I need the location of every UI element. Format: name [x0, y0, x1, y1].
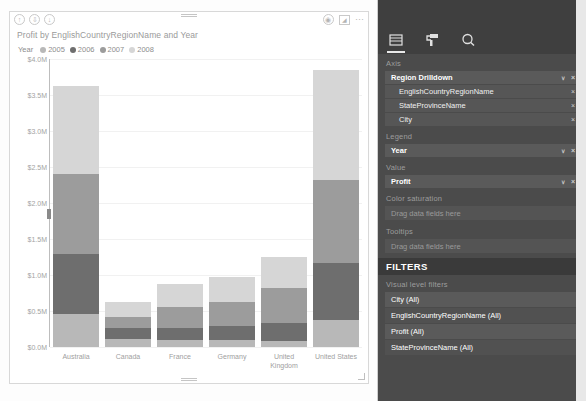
legend-item-2008[interactable]: 2008	[129, 45, 154, 54]
bar-segment[interactable]	[105, 339, 150, 347]
bar-series-group[interactable]	[50, 59, 362, 347]
bar-segment[interactable]	[209, 326, 254, 340]
y-axis: $4.0M$3.5M$3.0M$2.5M$2.0M$1.5M$1.0M$0.5M…	[13, 59, 49, 345]
legend-item-2006[interactable]: 2006	[70, 45, 95, 54]
field-pill[interactable]: Region Drilldown∨×	[385, 71, 579, 84]
remove-field-icon[interactable]: ×	[571, 147, 575, 154]
chevron-down-icon[interactable]: ∨	[561, 178, 565, 185]
remove-field-icon[interactable]: ×	[571, 116, 575, 123]
field-pill[interactable]: StateProvinceName×	[385, 99, 579, 112]
bar-column[interactable]	[105, 59, 150, 347]
legend-label-2007: 2007	[108, 45, 125, 54]
resize-handle-bottom[interactable]	[181, 378, 197, 381]
more-options-icon[interactable]: ⋯	[355, 16, 365, 24]
visual-actions[interactable]: ◉ ◢ ⋯	[323, 14, 365, 25]
bar-segment[interactable]	[313, 180, 358, 263]
legend-item-2005[interactable]: 2005	[40, 45, 65, 54]
bar-segment[interactable]	[105, 328, 150, 339]
panel-body: Axis Region Drilldown∨×EnglishCountryReg…	[378, 54, 586, 356]
bar-stack[interactable]	[53, 86, 98, 347]
bar-segment[interactable]	[261, 341, 306, 347]
y-tick-label: $1.0M	[28, 272, 47, 279]
bar-segment[interactable]	[261, 323, 306, 341]
bar-segment[interactable]	[313, 320, 358, 347]
legend-item-2007[interactable]: 2007	[100, 45, 125, 54]
y-tick-label: $2.0M	[28, 200, 47, 207]
bar-segment[interactable]	[261, 288, 306, 323]
panel-tab-strip[interactable]	[378, 26, 586, 54]
bar-stack[interactable]	[157, 284, 202, 347]
color-saturation-dropzone[interactable]: Drag data fields here	[385, 206, 579, 220]
resize-handle-top[interactable]	[181, 14, 197, 17]
bar-stack[interactable]	[261, 257, 306, 347]
bar-segment[interactable]	[157, 340, 202, 347]
bar-segment[interactable]	[53, 86, 98, 173]
bar-segment[interactable]	[53, 254, 98, 314]
bar-segment[interactable]	[313, 263, 358, 320]
bar-stack[interactable]	[105, 302, 150, 347]
bar-stack[interactable]	[209, 277, 254, 347]
legend-swatch-2005	[40, 47, 46, 53]
color-saturation-label: Color saturation	[378, 189, 586, 206]
bar-segment[interactable]	[53, 174, 98, 255]
plot-area[interactable]	[50, 59, 362, 347]
panel-right-edge	[576, 0, 586, 401]
chart-title: Profit by EnglishCountryRegionName and Y…	[17, 30, 198, 40]
tooltips-dropzone[interactable]: Drag data fields here	[385, 239, 579, 253]
magnifier-icon	[461, 33, 475, 47]
filter-list[interactable]: City (All)EnglishCountryRegionName (All)…	[378, 292, 586, 355]
field-pill-label: Year	[391, 146, 407, 155]
bar-column[interactable]	[53, 59, 98, 347]
remove-field-icon[interactable]: ×	[571, 74, 575, 81]
value-field-list[interactable]: Profit∨×	[378, 175, 586, 188]
focus-mode-icon[interactable]: ◉	[323, 14, 334, 25]
field-pill[interactable]: Profit∨×	[385, 175, 579, 188]
bar-column[interactable]	[313, 59, 358, 347]
legend-field-list[interactable]: Year∨×	[378, 144, 586, 157]
bar-segment[interactable]	[105, 317, 150, 329]
filter-row[interactable]: StateProvinceName (All)	[385, 340, 579, 355]
field-pill[interactable]: City×	[385, 113, 579, 126]
field-pill-label: City	[399, 115, 412, 124]
bar-segment[interactable]	[313, 70, 358, 180]
analytics-tab[interactable]	[458, 30, 478, 50]
bar-segment[interactable]	[157, 307, 202, 327]
filter-row[interactable]: Profit (All)	[385, 324, 579, 339]
remove-field-icon[interactable]: ×	[571, 178, 575, 185]
y-tick-label: $0.5M	[28, 308, 47, 315]
drill-up-icon[interactable]: ↑	[14, 14, 25, 25]
field-pill[interactable]: EnglishCountryRegionName×	[385, 85, 579, 98]
chart-visual-container[interactable]: ↑ ⇩ ↓ ◉ ◢ ⋯ Profit by EnglishCountryRegi…	[9, 11, 369, 384]
bar-stack[interactable]	[313, 70, 358, 347]
remove-field-icon[interactable]: ×	[571, 102, 575, 109]
bar-segment[interactable]	[157, 284, 202, 308]
y-tick-label: $2.5M	[28, 164, 47, 171]
bar-column[interactable]	[157, 59, 202, 347]
chevron-down-icon[interactable]: ∨	[561, 74, 565, 81]
x-tick-label: United States	[313, 349, 358, 379]
bar-segment[interactable]	[261, 257, 306, 288]
filter-icon[interactable]: ◢	[339, 15, 350, 25]
legend-swatch-2008	[129, 47, 135, 53]
field-pill[interactable]: Year∨×	[385, 144, 579, 157]
bar-column[interactable]	[261, 59, 306, 347]
chevron-down-icon[interactable]: ∨	[561, 147, 565, 154]
bar-segment[interactable]	[157, 328, 202, 340]
format-tab[interactable]	[422, 30, 442, 50]
axis-field-list[interactable]: Region Drilldown∨×EnglishCountryRegionNa…	[378, 71, 586, 126]
bar-segment[interactable]	[209, 340, 254, 347]
filter-row[interactable]: EnglishCountryRegionName (All)	[385, 308, 579, 323]
fields-tab[interactable]	[386, 30, 406, 50]
bar-segment[interactable]	[209, 302, 254, 326]
resize-handle-corner[interactable]	[358, 373, 365, 380]
bar-segment[interactable]	[105, 302, 150, 317]
filter-row[interactable]: City (All)	[385, 292, 579, 307]
expand-icon[interactable]: ⇩	[29, 14, 40, 25]
bar-segment[interactable]	[209, 277, 254, 302]
chart-legend[interactable]: Year 2005 2006 2007 2008	[18, 45, 154, 54]
bar-column[interactable]	[209, 59, 254, 347]
drill-down-icon[interactable]: ↓	[44, 14, 55, 25]
bar-segment[interactable]	[53, 314, 98, 347]
remove-field-icon[interactable]: ×	[571, 88, 575, 95]
drill-controls[interactable]: ↑ ⇩ ↓	[14, 14, 55, 25]
